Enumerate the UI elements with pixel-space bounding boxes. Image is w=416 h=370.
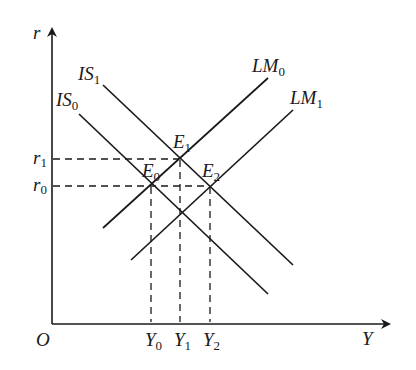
e0-label: E0 [141,160,160,184]
is-lm-diagram: r Y O IS1 IS0 LM0 LM1 E1 E0 E2 r1 r0 Y0 [0,0,416,370]
lm1-curve [131,110,293,260]
y2-label: Y2 [203,329,220,353]
x-axis-label: Y [362,328,375,349]
is1-label: IS1 [77,63,100,87]
is1-curve [103,85,293,265]
y1-label: Y1 [174,329,191,353]
origin-label: O [36,329,50,350]
r0-label: r0 [33,174,47,197]
r1-label: r1 [33,147,47,170]
is0-label: IS0 [55,89,78,113]
lm1-label: LM1 [289,87,323,111]
lm0-label: LM0 [251,55,285,79]
y-axis-label: r [33,22,41,43]
y0-label: Y0 [145,329,162,353]
e1-label: E1 [172,131,191,155]
e2-label: E2 [201,160,220,184]
